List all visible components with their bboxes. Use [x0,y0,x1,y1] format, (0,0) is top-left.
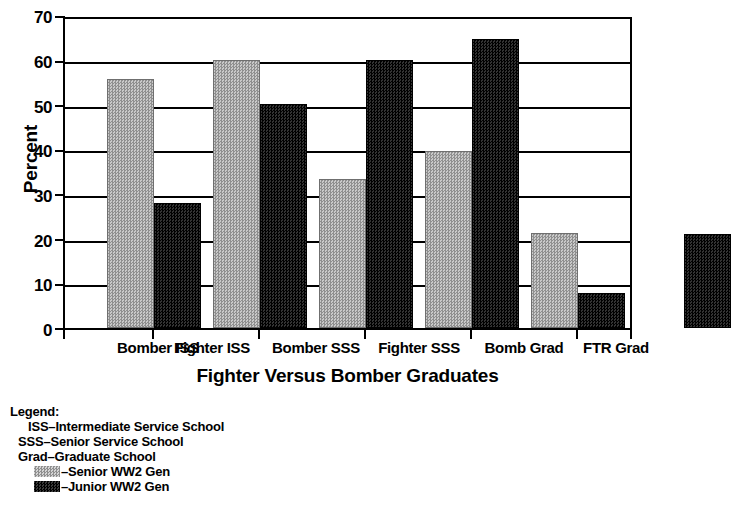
x-tick-mark-5 [576,330,578,339]
legend-entry-senior: –Senior WW2 Gen [34,464,370,479]
bar-ftr-grad-junior [684,234,731,328]
bar-fighter-iss-junior [260,104,307,328]
legend-label-senior: –Senior WW2 Gen [61,464,170,479]
chart-legend: Legend: ISS–Intermediate Service School … [10,404,370,494]
y-tick-label-30: 30 [10,187,52,207]
bar-bomber-iss-senior [107,79,154,328]
bar-fighter-sss-senior [425,151,472,328]
x-category-fighter-iss: Fighter ISS [167,339,257,356]
x-category-ftr-grad: FTR Grad [578,339,654,356]
x-category-bomb-grad: Bomb Grad [480,339,568,356]
y-tick-label-20: 20 [10,232,52,252]
x-tick-mark-0 [63,330,65,339]
x-category-fighter-sss: Fighter SSS [371,339,467,356]
y-tick-label-50: 50 [10,98,52,118]
y-tick-label-10: 10 [10,276,52,296]
y-tick-label-60: 60 [10,53,52,73]
bar-bomber-sss-senior [319,179,366,328]
legend-label-junior: –Junior WW2 Gen [61,479,169,494]
x-axis-title: Fighter Versus Bomber Graduates [63,365,632,387]
bar-fighter-sss-junior [472,39,519,328]
bar-bomber-sss-junior [366,60,413,328]
gridline-60 [65,62,630,64]
x-tick-mark-2 [258,330,260,339]
x-tick-mark-1 [152,330,154,339]
bar-bomber-iss-junior [154,203,201,328]
x-category-bomber-sss: Bomber SSS [266,339,366,356]
bar-fighter-iss-senior [213,60,260,328]
bar-bomb-grad-junior [578,293,625,328]
x-tick-mark-3 [364,330,366,339]
y-tick-label-40: 40 [10,142,52,162]
legend-definition-iss: ISS–Intermediate Service School [28,419,370,434]
legend-definition-sss: SSS–Senior Service School [18,434,370,449]
y-tick-label-0: 0 [10,321,52,341]
y-tick-label-70: 70 [10,8,52,28]
x-tick-mark-4 [470,330,472,339]
legend-heading: Legend: [10,404,370,419]
bar-bomb-grad-senior [531,233,578,328]
junior-swatch-icon [34,481,60,492]
legend-definition-grad: Grad–Graduate School [18,449,370,464]
plot-area [63,17,632,330]
senior-swatch-icon [34,466,60,477]
x-tick-mark-6 [630,330,632,339]
legend-entry-junior: –Junior WW2 Gen [34,479,370,494]
